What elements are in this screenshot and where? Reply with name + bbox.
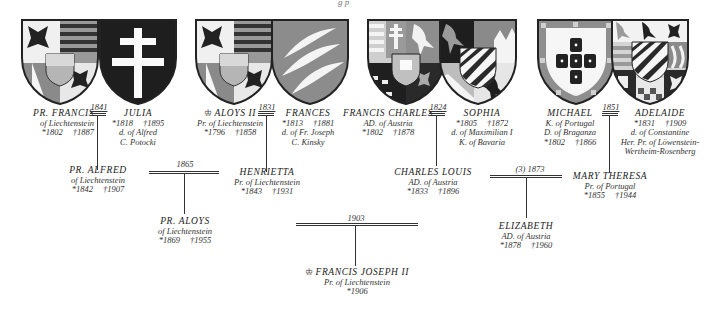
- descent-line: [266, 116, 267, 172]
- coat-of-arms-portugal-michael: [536, 18, 616, 108]
- coat-of-arms-liechtenstein-francis: [20, 18, 100, 108]
- crown-icon: ♔: [305, 267, 314, 277]
- coat-of-arms-liechtenstein-aloys: [194, 18, 274, 108]
- person-adelaide: ADELAIDE *1831†1909 d. of Constantine He…: [612, 109, 708, 157]
- coat-of-arms-austria-francis-charles: [366, 18, 446, 108]
- person-charles-louis: CHARLES LOUIS AD. of Austria *1833†1896: [388, 168, 478, 197]
- person-aloys: Pr. ALOYS of Liechtenstein *1869†1955: [150, 217, 220, 246]
- person-alfred: Pr. ALFRED of Liechtenstein *1842†1907: [62, 166, 134, 195]
- coat-of-arms-lowenstein-adelaide: [610, 18, 690, 108]
- marriage-year-1873: (3) 1873: [508, 164, 552, 174]
- person-francis-joseph-ii: ♔FRANCIS JOSEPH II Pr. of Liechtenstein …: [296, 268, 418, 297]
- marriage-line: [90, 113, 106, 116]
- marriage-line: [296, 223, 418, 226]
- person-frances: FRANCES *1813†1881 d. of Fr. Joseph C. K…: [276, 109, 340, 147]
- person-francis-charles: FRANCIS CHARLES AD. of Austria *1802†187…: [338, 109, 438, 138]
- marriage-year-1841: 1841: [89, 102, 109, 112]
- descent-line: [355, 226, 356, 266]
- coat-of-arms-bavaria-sophia: [438, 18, 518, 108]
- marriage-year-1903: 1903: [344, 213, 368, 223]
- descent-line: [97, 116, 98, 170]
- person-henrietta: HENRIETTA Pr. of Liechtenstein *1843†193…: [226, 168, 308, 197]
- person-julia: JULIA *1818†1895 d. of Alfred C. Potocki: [108, 109, 168, 147]
- person-francis: Pr. FRANCIS of Liechtenstein *1802†1887: [22, 109, 94, 138]
- person-michael: MICHAEL K. of Portugal D. of Braganza *1…: [536, 109, 604, 147]
- coat-of-arms-potocki-julia: [98, 18, 178, 108]
- descent-line: [609, 116, 610, 173]
- person-mary-theresa: MARY THERESA Pr. of Portugal *1855†1944: [570, 172, 650, 201]
- page-header-fragment: g p: [338, 0, 349, 7]
- marriage-year-1831: 1831: [257, 102, 277, 112]
- coat-of-arms-kinsky-frances: [270, 18, 350, 108]
- marriage-year-1865: 1865: [173, 159, 197, 169]
- person-sophia: SOPHIA *1805†1872 d. of Maximilian I K. …: [440, 109, 524, 147]
- crown-icon: ♔: [204, 108, 213, 118]
- descent-line: [184, 174, 185, 214]
- descent-line: [526, 178, 527, 218]
- descent-line: [436, 116, 437, 166]
- person-elizabeth: ELIZABETH AD. of Austria *1878†1960: [488, 222, 564, 251]
